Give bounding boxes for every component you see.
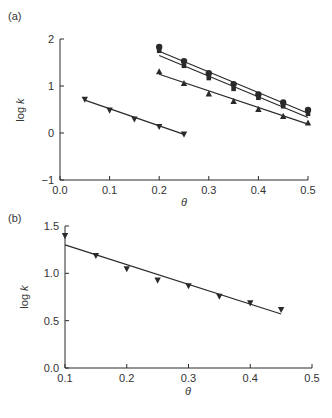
y-tick-label: 1.5	[44, 220, 59, 232]
x-tick-label: 0.0	[52, 184, 67, 196]
x-tick-label: 0.4	[251, 184, 266, 196]
data-point-square	[306, 111, 311, 116]
y-tick-label: −1	[41, 174, 54, 186]
data-point-triangle-down	[154, 278, 160, 284]
x-axis-label: θ	[185, 385, 191, 397]
figure: 0.00.10.20.30.40.5−1012(a)log kθ0.10.20.…	[0, 0, 332, 418]
chart-panel-a: 0.00.10.20.30.40.5−1012(a)log kθ	[8, 10, 316, 208]
series-triangles-down	[62, 233, 285, 314]
chart-panel-b: 0.10.20.30.40.50.00.51.01.5(b)log kθ	[8, 212, 320, 397]
x-axis-label: θ	[181, 196, 187, 208]
data-point-triangle-down	[82, 97, 88, 103]
data-point-triangle-up	[305, 119, 311, 125]
data-point-triangle-down	[216, 294, 222, 300]
y-tick-label: 2	[48, 33, 54, 45]
x-tick-label: 0.4	[243, 372, 258, 384]
x-tick-label: 0.1	[102, 184, 117, 196]
data-point-triangle-down	[124, 266, 130, 272]
x-tick-label: 0.5	[300, 184, 315, 196]
x-tick-label: 0.3	[201, 184, 216, 196]
data-point-triangle-down	[278, 307, 284, 313]
data-point-triangle-down	[106, 108, 112, 114]
x-tick-label: 0.1	[57, 372, 72, 384]
x-tick-label: 0.3	[181, 372, 196, 384]
series-triangles-up	[156, 68, 311, 125]
x-tick-label: 0.2	[152, 184, 167, 196]
data-point-square	[281, 104, 286, 109]
x-tick-label: 0.2	[119, 372, 134, 384]
panel-label: (b)	[8, 212, 21, 224]
y-tick-label: 1	[48, 80, 54, 92]
data-point-circle	[181, 58, 187, 64]
y-tick-label: 1.0	[44, 267, 59, 279]
y-axis-label: log k	[18, 285, 30, 309]
panel-label: (a)	[8, 10, 21, 22]
data-point-square	[231, 87, 236, 92]
data-point-square	[157, 48, 162, 53]
data-point-triangle-down	[131, 117, 137, 123]
y-tick-label: 0	[48, 127, 54, 139]
data-point-triangle-down	[181, 132, 187, 138]
y-tick-label: 0.5	[44, 315, 59, 327]
data-point-square	[256, 95, 261, 100]
data-point-triangle-down	[62, 233, 68, 239]
data-point-square	[182, 63, 187, 68]
series-triangles-down	[82, 97, 188, 138]
x-tick-label: 0.5	[304, 372, 319, 384]
figure-caption-clipped	[2, 410, 332, 418]
y-axis-label: log k	[14, 98, 26, 122]
data-point-triangle-up	[156, 68, 162, 74]
data-point-triangle-down	[185, 283, 191, 289]
y-tick-label: 0.0	[44, 362, 59, 374]
fit-line	[159, 55, 308, 117]
data-point-square	[207, 76, 212, 81]
